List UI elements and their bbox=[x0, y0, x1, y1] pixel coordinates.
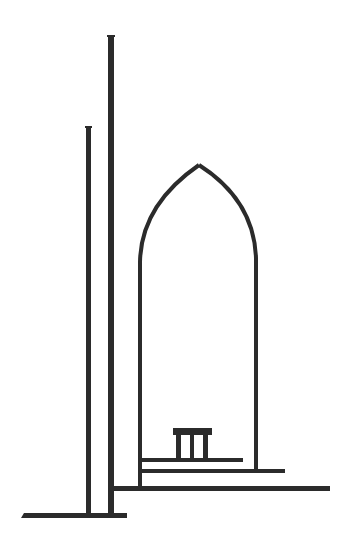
bench-top bbox=[173, 428, 212, 435]
tall-pole bbox=[108, 35, 114, 517]
base-line bbox=[21, 513, 127, 518]
short-pole bbox=[86, 126, 91, 517]
bench-leg-left bbox=[176, 435, 181, 459]
bench-leg-right bbox=[203, 435, 208, 459]
short-pole-cap bbox=[85, 126, 92, 128]
bench-leg-middle bbox=[190, 435, 194, 459]
gothic-arch-right bbox=[199, 165, 256, 472]
illustration-canvas bbox=[0, 0, 354, 555]
tall-pole-cap bbox=[107, 35, 115, 37]
step-middle bbox=[142, 469, 285, 473]
step-bottom bbox=[113, 486, 330, 491]
